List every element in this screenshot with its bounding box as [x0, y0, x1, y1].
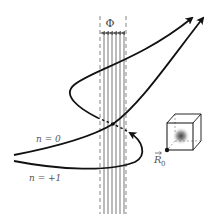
origin-point: [165, 148, 169, 152]
flux-tube: Φ: [100, 16, 126, 214]
flux-symbol: Φ: [105, 17, 114, 30]
svg-text:0: 0: [161, 160, 165, 168]
path-n1-upper: [70, 18, 192, 118]
cube-wavepacket: [165, 114, 201, 152]
crossing-point: [111, 122, 115, 126]
aharonov-bohm-diagram: Φ n = 0 n = +1 R 0: [0, 0, 213, 222]
label-n1: n = +1: [29, 173, 61, 183]
position-label: R 0: [153, 152, 165, 169]
label-n0: n = 0: [36, 134, 61, 144]
